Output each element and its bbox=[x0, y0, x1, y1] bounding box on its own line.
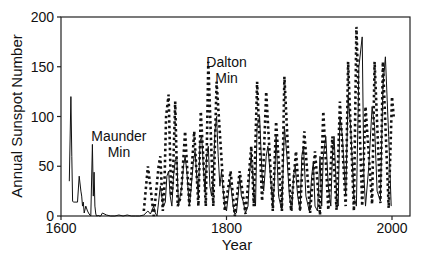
y-axis: 050100150200 bbox=[31, 9, 61, 224]
y-tick-label: 200 bbox=[31, 9, 55, 25]
x-tick-label: 1600 bbox=[45, 220, 76, 236]
y-axis-title: Annual Sunspot Number bbox=[8, 34, 25, 197]
annotation-label: DaltonMin bbox=[206, 54, 246, 86]
x-tick-label: 1800 bbox=[211, 220, 242, 236]
y-tick-label: 50 bbox=[38, 158, 54, 174]
x-axis-title: Year bbox=[222, 236, 252, 253]
x-tick-label: 2000 bbox=[376, 220, 407, 236]
sunspot-chart: 050100150200 160018002000 MaunderMinDalt… bbox=[0, 0, 426, 259]
y-tick-label: 150 bbox=[31, 59, 55, 75]
annotation-label: MaunderMin bbox=[91, 128, 147, 160]
x-axis: 160018002000 bbox=[45, 216, 407, 236]
y-tick-label: 100 bbox=[31, 109, 55, 125]
